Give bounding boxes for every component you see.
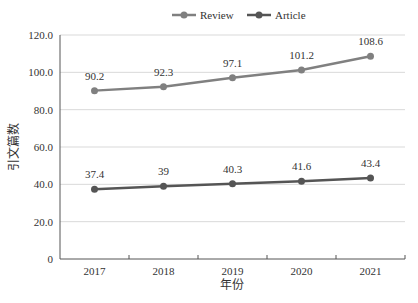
data-point: [298, 178, 305, 185]
data-label: 97.1: [223, 57, 242, 69]
y-axis-label: 引文篇数: [6, 123, 21, 171]
x-tick-label: 2020: [291, 265, 314, 277]
x-tick-label: 2019: [222, 265, 245, 277]
data-point: [91, 186, 98, 193]
x-tick-label: 2018: [153, 265, 176, 277]
data-label: 92.3: [154, 66, 174, 78]
y-tick-label: 60.0: [34, 141, 54, 153]
legend-item-review: Review: [172, 9, 234, 21]
data-point: [229, 74, 236, 81]
line-chart: 020.040.060.080.0100.0120.0 201720182019…: [0, 0, 418, 303]
legend: ReviewArticle: [172, 9, 306, 21]
data-label: 108.6: [358, 35, 383, 47]
data-label: 37.4: [85, 168, 105, 180]
y-tick-label: 40.0: [34, 178, 54, 190]
legend-item-article: Article: [247, 9, 306, 21]
x-tick-label: 2017: [84, 265, 107, 277]
y-tick-labels: 020.040.060.080.0100.0120.0: [28, 29, 53, 265]
legend-marker-icon: [181, 12, 188, 19]
data-label: 101.2: [289, 49, 314, 61]
x-axis-label: 年份: [220, 278, 244, 292]
data-point: [367, 53, 374, 60]
y-tick-label: 20.0: [34, 216, 54, 228]
legend-label: Article: [275, 9, 306, 21]
data-label: 40.3: [223, 163, 243, 175]
data-label: 39: [158, 165, 170, 177]
data-point: [298, 67, 305, 74]
data-point: [367, 174, 374, 181]
y-tick-label: 100.0: [28, 66, 53, 78]
series-article: 37.43940.341.643.4: [85, 157, 381, 193]
data-label: 90.2: [85, 70, 104, 82]
series-review: 90.292.397.1101.2108.6: [85, 35, 384, 94]
x-tick-label: 2021: [360, 265, 382, 277]
y-tick-label: 0: [48, 253, 54, 265]
data-point: [160, 183, 167, 190]
data-point: [160, 83, 167, 90]
x-tick-labels: 20172018201920202021: [84, 265, 382, 277]
data-point: [91, 87, 98, 94]
y-tick-label: 80.0: [34, 104, 54, 116]
data-point: [229, 180, 236, 187]
legend-marker-icon: [256, 12, 263, 19]
y-tick-label: 120.0: [28, 29, 53, 41]
series-lines: 90.292.397.1101.2108.637.43940.341.643.4: [85, 35, 384, 192]
data-label: 41.6: [292, 160, 312, 172]
legend-label: Review: [200, 9, 234, 21]
data-label: 43.4: [361, 157, 381, 169]
